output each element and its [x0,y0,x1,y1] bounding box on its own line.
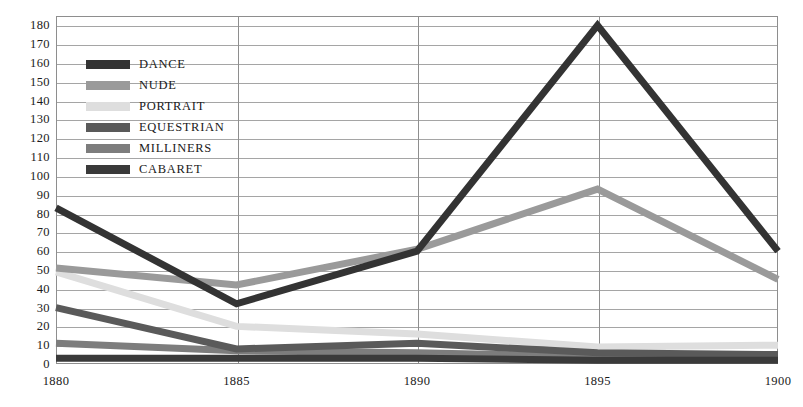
legend-label-milliners: MILLINERS [139,141,212,156]
y-tick-label-0: 0 [4,358,50,370]
series-line-nude [56,189,778,285]
y-tick-label-20: 20 [4,320,50,332]
y-tick-label-160: 160 [4,57,50,69]
y-tick-label-70: 70 [4,226,50,238]
x-axis: 18801885189018951900 [56,370,778,394]
legend-label-nude: NUDE [139,78,177,93]
legend-label-equestrian: EQUESTRIAN [139,120,224,135]
x-tick-label-1900: 1900 [765,374,792,388]
y-tick-label-150: 150 [4,76,50,88]
y-tick-label-100: 100 [4,170,50,182]
y-tick-label-10: 10 [4,339,50,351]
y-tick-label-110: 110 [4,151,50,163]
y-tick-label-30: 30 [4,302,50,314]
legend-item-equestrian[interactable]: EQUESTRIAN [86,118,266,136]
y-tick-label-60: 60 [4,245,50,257]
legend-swatch-milliners [86,144,130,153]
y-tick-label-170: 170 [4,38,50,50]
line-chart: 0102030405060708090100110120130140150160… [0,0,803,407]
legend-item-dance[interactable]: DANCE [86,55,266,73]
legend-item-nude[interactable]: NUDE [86,76,266,94]
x-tick-label-1890: 1890 [404,374,431,388]
x-tick-label-1885: 1885 [223,374,250,388]
y-tick-label-130: 130 [4,113,50,125]
legend-swatch-cabaret [86,165,130,174]
legend-swatch-equestrian [86,123,130,132]
legend-item-portrait[interactable]: PORTRAIT [86,97,266,115]
legend-swatch-portrait [86,102,130,111]
legend-label-portrait: PORTRAIT [139,99,205,114]
legend-swatch-nude [86,81,130,90]
y-tick-label-180: 180 [4,19,50,31]
y-tick-label-140: 140 [4,95,50,107]
y-tick-label-90: 90 [4,189,50,201]
y-tick-label-80: 80 [4,208,50,220]
y-tick-label-120: 120 [4,132,50,144]
legend-label-dance: DANCE [139,57,186,72]
legend-item-cabaret[interactable]: CABARET [86,160,266,178]
y-tick-label-40: 40 [4,283,50,295]
y-tick-label-50: 50 [4,264,50,276]
legend-swatch-dance [86,60,130,69]
legend: DANCENUDEPORTRAITEQUESTRIANMILLINERSCABA… [86,55,266,181]
legend-label-cabaret: CABARET [139,162,202,177]
legend-item-milliners[interactable]: MILLINERS [86,139,266,157]
x-tick-label-1880: 1880 [43,374,70,388]
y-axis: 0102030405060708090100110120130140150160… [0,16,50,364]
x-tick-label-1895: 1895 [584,374,611,388]
series-line-cabaret [56,358,778,360]
